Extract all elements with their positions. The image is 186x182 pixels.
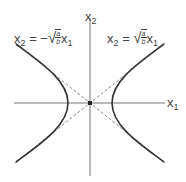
- minus-sign: −: [40, 31, 48, 46]
- asymptote-positive-label: x2 = √abx1: [107, 29, 158, 48]
- equals-sign: =: [29, 31, 37, 46]
- equals-sign: =: [122, 31, 130, 46]
- rhs-sub: 1: [68, 38, 73, 48]
- lhs-sub: 2: [21, 38, 26, 48]
- axis-sub: 1: [174, 102, 179, 112]
- x1-axis-label: x1: [167, 96, 179, 112]
- hyperbola-diagram: [0, 0, 186, 182]
- x2-axis-label: x2: [85, 10, 97, 26]
- rhs-sub: 1: [153, 38, 158, 48]
- sqrt-expression: √ab: [48, 29, 61, 45]
- lhs-sub: 2: [114, 38, 119, 48]
- axis-sub: 2: [92, 16, 97, 26]
- sqrt-expression: √ab: [133, 29, 146, 45]
- origin-marker: [88, 101, 92, 105]
- asymptote-negative-label: x2 = −√abx1: [14, 29, 73, 48]
